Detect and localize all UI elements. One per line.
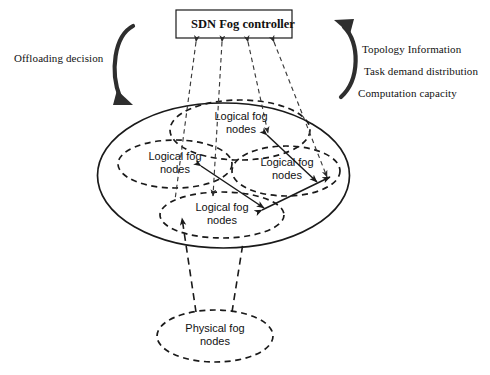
offloading-decision-label: Offloading decision — [14, 52, 103, 64]
logical-fog-node-label-top: Logical fog nodes — [195, 110, 287, 136]
logical-fog-node-label-bottom: Logical fog nodes — [176, 201, 268, 227]
offloading-decision-arc — [115, 26, 133, 97]
control-link-1 — [175, 42, 196, 200]
topology-information-label: Topology Information — [362, 43, 461, 55]
sdn-controller-label: SDN Fog controller — [191, 17, 295, 32]
task-demand-distribution-label: Task demand distribution — [364, 65, 478, 77]
physical-fog-node-label: Physical fog nodes — [169, 322, 261, 348]
offloading-decision-arrowhead — [113, 90, 133, 105]
computation-capacity-label: Computation capacity — [358, 87, 457, 99]
mapping-link-left — [182, 218, 196, 312]
mapping-link-right — [232, 243, 243, 312]
logical-fog-node-label-right: Logical fog nodes — [241, 156, 333, 182]
logical-fog-node-label-left: Logical fog nodes — [129, 150, 221, 176]
diagram-canvas: SDN Fog controller Offloading decision T… — [0, 0, 490, 375]
feedback-arc — [341, 27, 356, 97]
feedback-arrowhead — [334, 19, 354, 34]
